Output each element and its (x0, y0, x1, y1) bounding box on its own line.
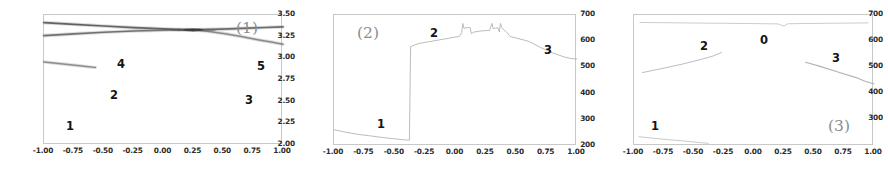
panel-2-ytick-500: 500 (562, 62, 595, 70)
panel-1: 2.00 2.25 2.50 2.75 3.00 3.25 3.50 -1.00… (0, 0, 295, 175)
panel-3-curve-label-2: 2 (700, 40, 708, 52)
panel-1-curve-label-3: 3 (245, 94, 253, 106)
panel-2-ytick-300: 300 (562, 115, 595, 123)
panel-2-tag: (2) (357, 25, 379, 41)
panel-3-ytick-600: 600 (850, 36, 883, 44)
panel-2-xtick-1.00: 1.00 (556, 148, 596, 156)
panel-2-curve-label-3: 3 (544, 44, 552, 56)
panel-1-ytick-2.25: 2.25 (257, 118, 295, 126)
panel-3-xtick-1.00: 1.00 (853, 148, 888, 156)
panel-2-ytick-400: 400 (562, 89, 595, 97)
panel-2-ytick-600: 600 (562, 36, 595, 44)
panel-3-ytick-500: 500 (850, 62, 883, 70)
panel-1-ytick-2.75: 2.75 (257, 75, 295, 83)
panel-3-tag: (3) (828, 118, 850, 134)
panel-2: 200 300 400 500 600 700 -1.00 -0.75 -0.5… (295, 0, 595, 175)
panel-1-curve-label-2: 2 (110, 89, 118, 101)
panel-3-segment-2 (642, 53, 721, 73)
panel-2-curve-label-1: 1 (377, 118, 385, 130)
panel-3-ytick-700: 700 (850, 10, 883, 18)
panel-1-curve-label-5: 5 (257, 60, 265, 72)
panel-1-ytick-2.50: 2.50 (257, 97, 295, 105)
panel-1-ytick-3.50: 3.50 (257, 10, 295, 18)
panel-1-curve-label-1: 1 (66, 120, 74, 132)
panel-3-ytick-400: 400 (850, 88, 883, 96)
panel-2-curve-label-2: 2 (430, 27, 438, 39)
panel-1-band-1 (44, 62, 95, 68)
panel-1-curve-label-4: 4 (117, 58, 125, 70)
panel-3: 300 400 500 600 700 -1.00 -0.75 -0.50 -0… (595, 0, 883, 175)
panel-3-curve-label-0: 0 (760, 34, 768, 46)
panel-1-ytick-3.25: 3.25 (257, 32, 295, 40)
panel-3-ytick-300: 300 (850, 114, 883, 122)
panel-3-curve-label-1b: 1 (651, 120, 659, 132)
panel-2-ytick-700: 700 (562, 10, 595, 18)
panel-3-segment-0 (640, 23, 868, 27)
panel-1-band-4 (44, 23, 193, 30)
panel-3-segment-1 (639, 137, 709, 144)
panel-3-curve-label-3: 3 (832, 52, 840, 64)
panel-1-tag: (1) (236, 20, 258, 36)
